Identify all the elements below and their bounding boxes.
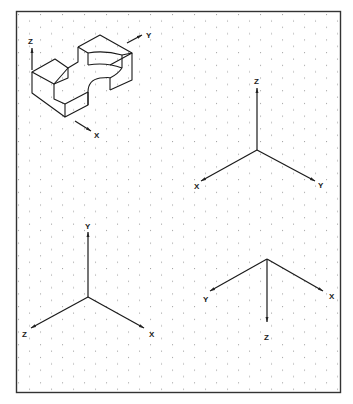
isometric-worksheet: Z Y X Z X Y Y Z X Y X Z [0,0,353,404]
triad2-y-label: Y [85,222,91,231]
triad1-y-label: Y [318,181,324,190]
triad2-z-label: Z [22,330,27,339]
triad2-x-label: X [149,330,155,339]
triad3-x-label: X [329,292,335,301]
triad3-z-label: Z [264,333,269,342]
object-z-label: Z [28,37,33,46]
triad1-x-label: X [194,182,200,191]
object-y-label: Y [146,31,152,40]
triad1-z-label: Z [254,77,259,86]
triad3-y-label: Y [203,295,209,304]
object-x-label: X [94,131,100,140]
